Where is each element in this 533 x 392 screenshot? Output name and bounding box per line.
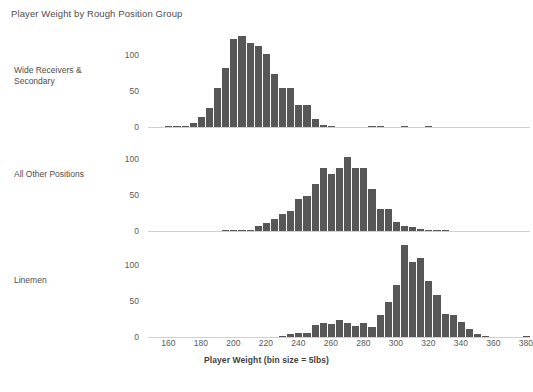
histogram-bar [392, 285, 400, 337]
histogram-bar [424, 281, 432, 337]
panel-row-label: Linemen [14, 275, 124, 286]
panel-row-label: All Other Positions [14, 169, 124, 180]
histogram-bar [359, 323, 367, 337]
histogram-bar [335, 320, 343, 337]
histogram-bar [457, 322, 465, 337]
x-tick-label: 360 [486, 338, 500, 348]
x-tick-label: 200 [226, 338, 240, 348]
histogram-bar [311, 325, 319, 337]
x-tick-label: 380 [519, 338, 533, 348]
y-tick-label: 50 [105, 297, 139, 306]
x-tick-label: 320 [421, 338, 435, 348]
x-tick-label: 240 [291, 338, 305, 348]
histogram-bar [294, 333, 302, 337]
histogram-bar [376, 315, 384, 337]
y-tick-label: 0 [105, 227, 139, 236]
histogram-bar [384, 302, 392, 337]
histogram-bar [473, 334, 481, 337]
chart-root: Player Weight by Rough Position Group Wi… [0, 0, 533, 392]
histogram-bar [343, 323, 351, 337]
x-tick-label: 160 [161, 338, 175, 348]
x-axis-label: Player Weight (bin size = 5lbs) [0, 355, 533, 365]
histogram-bar [400, 245, 408, 337]
x-tick-label: 180 [194, 338, 208, 348]
x-tick-label: 340 [454, 338, 468, 348]
y-tick-label: 50 [105, 87, 139, 96]
histogram-bars [148, 207, 530, 337]
histogram-bar [327, 324, 335, 337]
histogram-bar [416, 258, 424, 337]
y-tick-label: 0 [105, 123, 139, 132]
histogram-bar [302, 333, 310, 337]
panel-row-label: Wide Receivers & Secondary [14, 65, 124, 87]
histogram-bar [441, 314, 449, 337]
histogram-bar [408, 262, 416, 337]
y-tick-label: 50 [105, 191, 139, 200]
histogram-bar [351, 326, 359, 337]
histogram-bar [449, 315, 457, 337]
histogram-bar [522, 336, 530, 337]
histogram-bar [278, 336, 286, 337]
histogram-bar [432, 295, 440, 337]
y-tick-label: 100 [105, 155, 139, 164]
histogram-bar [286, 334, 294, 337]
histogram-bar [319, 323, 327, 337]
x-tick-label: 220 [259, 338, 273, 348]
x-tick-label: 300 [389, 338, 403, 348]
x-axis: 160180200220240260280300320340360380 [0, 338, 533, 352]
histogram-bar [465, 329, 473, 337]
histogram-bar [481, 336, 489, 337]
y-tick-label: 100 [105, 261, 139, 270]
x-tick-label: 280 [356, 338, 370, 348]
histogram-bar [367, 327, 375, 337]
x-tick-label: 260 [324, 338, 338, 348]
y-tick-label: 100 [105, 51, 139, 60]
